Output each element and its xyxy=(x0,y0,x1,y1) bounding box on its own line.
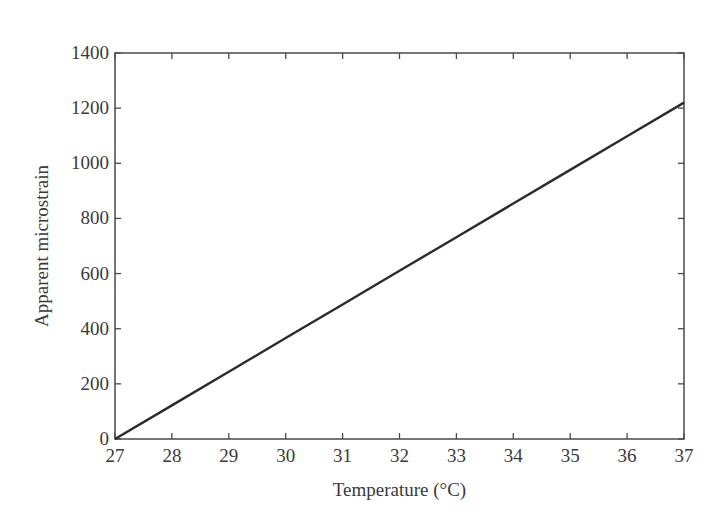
x-tick-label: 36 xyxy=(618,445,637,466)
y-tick-label: 1200 xyxy=(71,97,109,118)
y-tick-label: 800 xyxy=(81,207,110,228)
y-tick-label: 1400 xyxy=(71,42,109,63)
data-line xyxy=(115,103,684,439)
x-tick-label: 30 xyxy=(276,445,295,466)
x-tick-label: 34 xyxy=(504,445,524,466)
x-tick-label: 35 xyxy=(561,445,580,466)
x-tick-label: 29 xyxy=(219,445,238,466)
y-axis-title: Apparent microstrain xyxy=(31,165,52,327)
y-axis-ticks: 0200400600800100012001400 xyxy=(71,42,684,449)
x-tick-label: 37 xyxy=(675,445,694,466)
x-tick-label: 27 xyxy=(106,445,125,466)
y-tick-label: 200 xyxy=(81,373,110,394)
x-tick-label: 32 xyxy=(390,445,409,466)
x-tick-label: 28 xyxy=(162,445,181,466)
x-tick-label: 33 xyxy=(447,445,466,466)
y-tick-label: 1000 xyxy=(71,152,109,173)
x-axis-title: Temperature (°C) xyxy=(333,479,466,501)
y-tick-label: 600 xyxy=(81,263,110,284)
plot-frame xyxy=(115,53,684,439)
x-axis-ticks: 2728293031323334353637 xyxy=(106,53,694,466)
line-chart: 0200400600800100012001400 27282930313233… xyxy=(0,0,725,521)
y-tick-label: 400 xyxy=(81,318,110,339)
x-tick-label: 31 xyxy=(333,445,352,466)
